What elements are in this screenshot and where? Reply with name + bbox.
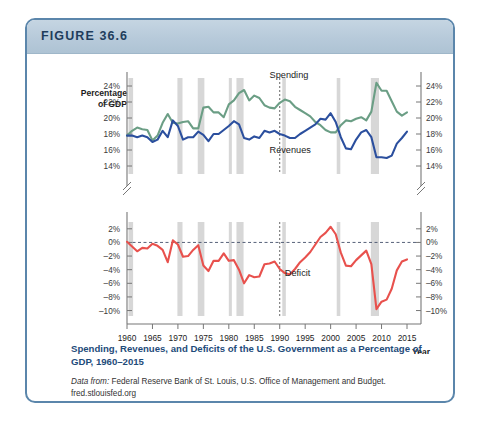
svg-text:18%: 18%	[426, 130, 442, 139]
svg-text:24%: 24%	[104, 82, 120, 91]
svg-text:–10%: –10%	[426, 307, 447, 316]
source-text: Federal Reserve Bank of St. Louis, U.S. …	[109, 377, 386, 386]
svg-text:–6%: –6%	[104, 279, 120, 288]
svg-text:20%: 20%	[104, 114, 120, 123]
svg-text:–4%: –4%	[104, 266, 120, 275]
svg-text:14%: 14%	[104, 162, 120, 171]
figure-box: FIGURE 36.6 Percentage of GDP 14%14%16%1…	[25, 18, 455, 403]
svg-text:16%: 16%	[426, 146, 442, 155]
svg-text:Deficit: Deficit	[285, 268, 311, 278]
svg-text:16%: 16%	[104, 146, 120, 155]
svg-text:–4%: –4%	[426, 266, 442, 275]
svg-text:20%: 20%	[426, 114, 442, 123]
figure-number-label: FIGURE 36.6	[41, 29, 128, 43]
figure-header-band: FIGURE 36.6	[27, 20, 453, 54]
svg-text:2%: 2%	[108, 225, 120, 234]
svg-text:–2%: –2%	[104, 252, 120, 261]
figure-page: FIGURE 36.6 Percentage of GDP 14%14%16%1…	[0, 0, 480, 427]
svg-text:–2%: –2%	[426, 252, 442, 261]
svg-text:22%: 22%	[426, 98, 442, 107]
svg-text:2%: 2%	[426, 225, 438, 234]
svg-text:Spending: Spending	[270, 70, 309, 80]
figure-caption: Spending, Revenues, and Deficits of the …	[71, 342, 431, 368]
source-url: fred.stlouisfed.org	[71, 389, 136, 398]
svg-text:Revenues: Revenues	[270, 145, 312, 155]
figure-source: Data from: Federal Reserve Bank of St. L…	[71, 376, 441, 399]
svg-text:24%: 24%	[426, 82, 442, 91]
svg-text:–8%: –8%	[426, 293, 442, 302]
svg-text:–10%: –10%	[99, 307, 120, 316]
svg-text:22%: 22%	[104, 98, 120, 107]
chart-svg: 14%14%16%16%18%18%20%20%22%22%24%24%2%2%…	[27, 54, 453, 354]
svg-text:14%: 14%	[426, 162, 442, 171]
svg-text:–6%: –6%	[426, 279, 442, 288]
source-prefix: Data from:	[71, 377, 109, 386]
svg-text:–8%: –8%	[104, 293, 120, 302]
svg-text:0%: 0%	[426, 238, 438, 247]
svg-text:0%: 0%	[108, 238, 120, 247]
svg-text:18%: 18%	[104, 130, 120, 139]
